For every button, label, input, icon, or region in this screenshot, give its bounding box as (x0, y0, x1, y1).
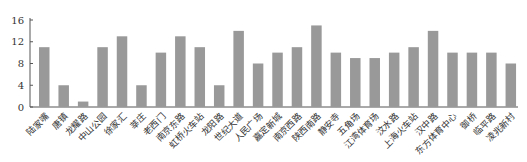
bar (233, 31, 244, 107)
bar-chart: 0481216 陆家嘴唐镇龙耀路中山公园徐家汇莘庄老西门南京东路虹桥火车站龙阳路… (0, 0, 527, 162)
bar (369, 58, 380, 107)
bar (389, 53, 400, 107)
y-tick-label: 16 (11, 15, 24, 26)
bar (292, 47, 303, 107)
y-tick-label: 0 (18, 102, 24, 113)
bar (214, 85, 225, 107)
y-tick-label: 8 (18, 58, 24, 69)
bar (311, 25, 322, 107)
bar (117, 36, 128, 107)
bar (467, 53, 478, 107)
x-tick-label: 徐家汇 (102, 111, 129, 138)
bar (78, 102, 89, 107)
bar (272, 53, 283, 107)
bar (486, 53, 497, 107)
bar (350, 58, 361, 107)
bar (175, 36, 186, 107)
bar (97, 47, 108, 107)
x-tick-label: 陆家嘴 (24, 111, 51, 138)
y-tick-label: 4 (18, 80, 24, 91)
bar (331, 53, 342, 107)
bar (506, 64, 517, 108)
bar (39, 47, 50, 107)
bar (447, 53, 458, 107)
y-axis: 0481216 (11, 15, 518, 113)
bar (136, 85, 147, 107)
x-axis-labels: 陆家嘴唐镇龙耀路中山公园徐家汇莘庄老西门南京东路虹桥火车站龙阳路世纪大道人民广场… (24, 111, 517, 157)
y-tick-label: 12 (11, 36, 24, 47)
bar (253, 64, 264, 108)
bar (195, 47, 206, 107)
bar (156, 53, 167, 107)
bar (408, 47, 419, 107)
bars (39, 25, 516, 107)
bar (58, 85, 69, 107)
bar (428, 31, 439, 107)
